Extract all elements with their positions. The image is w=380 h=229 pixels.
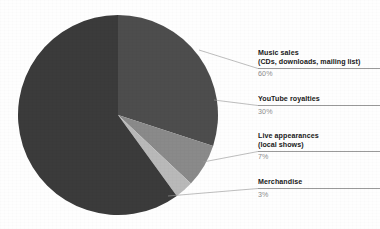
pie-slices-group xyxy=(18,15,218,215)
leader-line-live-appearances xyxy=(203,152,258,163)
callout-youtube-royalties[interactable]: YouTube royalties 30% xyxy=(258,95,380,117)
callout-merchandise-percent: 3% xyxy=(258,191,380,200)
callout-youtube-royalties-percent: 30% xyxy=(258,108,380,117)
callout-music-sales-title: Music sales xyxy=(258,49,380,58)
callout-merchandise-title: Merchandise xyxy=(258,178,380,187)
callout-youtube-royalties-title: YouTube royalties xyxy=(258,95,380,104)
callout-music-sales[interactable]: Music sales (CDs, downloads, mailing lis… xyxy=(258,49,380,79)
pie-chart-figure: Music sales (CDs, downloads, mailing lis… xyxy=(0,0,380,229)
callout-live-appearances[interactable]: Live appearances (local shows) 7% xyxy=(258,132,380,162)
callout-music-sales-subtitle: (CDs, downloads, mailing list) xyxy=(258,58,380,67)
callout-live-appearances-title: Live appearances xyxy=(258,132,380,141)
callout-live-appearances-rule xyxy=(258,151,380,152)
callout-live-appearances-percent: 7% xyxy=(258,153,380,162)
callout-music-sales-rule xyxy=(258,68,380,69)
leader-line-youtube-royalties xyxy=(214,100,258,106)
callout-music-sales-percent: 60% xyxy=(258,70,380,79)
callout-merchandise[interactable]: Merchandise 3% xyxy=(258,178,380,200)
callout-youtube-royalties-rule xyxy=(258,105,380,106)
callout-live-appearances-subtitle: (local shows) xyxy=(258,141,380,150)
leader-line-music-sales xyxy=(199,50,258,69)
callout-merchandise-rule xyxy=(258,188,380,189)
